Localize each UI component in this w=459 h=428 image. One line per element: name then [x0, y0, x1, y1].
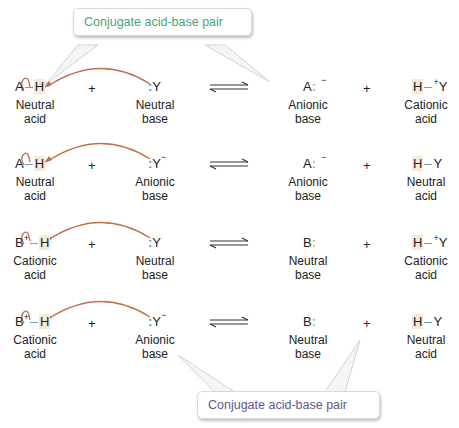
- product-acid: H+Y: [412, 236, 447, 251]
- label-line1: Neutral: [0, 98, 70, 112]
- acid-hydrogen: H: [412, 156, 423, 171]
- product-base: B:: [303, 236, 316, 250]
- acid-hydrogen: H: [412, 235, 423, 250]
- charge: −: [161, 310, 166, 320]
- diagram-graphics: [0, 0, 459, 428]
- product-base-label: Neutralbase: [273, 333, 343, 361]
- label-line1: Neutral: [391, 333, 459, 347]
- acid-left-atom: A: [15, 79, 24, 94]
- acid-hydrogen: H: [412, 79, 423, 94]
- product-acid-label: Cationicacid: [391, 98, 459, 126]
- reactant-acid: AH: [15, 157, 45, 172]
- acid-left-atom: B: [15, 314, 24, 329]
- charge: +: [433, 77, 438, 87]
- bond: [424, 164, 432, 165]
- bond: [25, 164, 33, 165]
- reactant-acid-label: Cationicacid: [0, 333, 70, 361]
- bond: [25, 87, 33, 88]
- label-line2: acid: [0, 112, 70, 126]
- plus-sign: +: [88, 316, 96, 331]
- label-line2: acid: [391, 189, 459, 203]
- label-line1: Neutral: [0, 175, 70, 189]
- acid-charge: +: [24, 312, 29, 322]
- lone-pair: :: [312, 314, 316, 329]
- charge: +: [433, 233, 438, 243]
- product-base-label: Anionicbase: [273, 175, 343, 203]
- reactant-base: :Y: [148, 80, 161, 94]
- product-base-label: Anionicbase: [273, 98, 343, 126]
- base-atom: Y: [152, 156, 161, 171]
- top-callout-right-tail: [205, 45, 270, 82]
- base-atom: B: [303, 235, 312, 250]
- base-atom: Y: [152, 235, 161, 250]
- label-line1: Anionic: [120, 175, 190, 189]
- plus-sign: +: [363, 316, 371, 331]
- bottom-callout-text: Conjugate acid-base pair: [208, 398, 347, 412]
- acid-hydrogen: H: [39, 314, 50, 329]
- product-base: A:−: [303, 80, 321, 95]
- label-line2: base: [273, 189, 343, 203]
- acid-atom: Y: [439, 79, 448, 94]
- base-atom: A: [303, 156, 312, 171]
- charge: −: [161, 152, 166, 162]
- base-atom: A: [303, 79, 312, 94]
- label-line1: Cationic: [391, 254, 459, 268]
- reactant-acid-label: Neutralacid: [0, 98, 70, 126]
- charge: −: [321, 152, 326, 162]
- reactant-acid-label: Cationicacid: [0, 254, 70, 282]
- label-line2: acid: [391, 347, 459, 361]
- reactant-base: :Y: [148, 236, 161, 250]
- label-line1: Cationic: [0, 333, 70, 347]
- label-line2: base: [273, 347, 343, 361]
- acid-atom: Y: [433, 156, 442, 171]
- bond: [30, 322, 38, 323]
- bond: [30, 243, 38, 244]
- label-line2: acid: [0, 347, 70, 361]
- plus-sign: +: [88, 237, 96, 252]
- acid-left-atom: B: [15, 235, 24, 250]
- product-acid-label: Cationicacid: [391, 254, 459, 282]
- reactant-base: :Y−: [148, 157, 166, 172]
- base-atom: Y: [152, 314, 161, 329]
- lone-pair: :: [312, 235, 316, 250]
- lone-pair: :: [312, 156, 316, 171]
- base-atom: Y: [152, 79, 161, 94]
- base-atom: B: [303, 314, 312, 329]
- label-line2: base: [273, 112, 343, 126]
- label-line1: Neutral: [273, 254, 343, 268]
- product-acid-label: Neutralacid: [391, 175, 459, 203]
- plus-sign: +: [88, 158, 96, 173]
- reactant-acid-label: Neutralacid: [0, 175, 70, 203]
- acid-hydrogen: H: [412, 314, 423, 329]
- label-line2: base: [120, 347, 190, 361]
- bond: [424, 87, 432, 88]
- acid-atom: Y: [439, 235, 448, 250]
- label-line1: Anionic: [273, 98, 343, 112]
- label-line1: Neutral: [120, 98, 190, 112]
- label-line2: acid: [0, 268, 70, 282]
- acid-hydrogen: H: [34, 79, 45, 94]
- label-line2: base: [120, 112, 190, 126]
- equilibrium-arrows: [210, 82, 248, 327]
- acid-left-atom: A: [15, 156, 24, 171]
- label-line1: Neutral: [273, 333, 343, 347]
- product-base: A:−: [303, 157, 321, 172]
- charge: −: [321, 75, 326, 85]
- reactant-base-label: Neutralbase: [120, 98, 190, 126]
- reactant-base-label: Neutralbase: [120, 254, 190, 282]
- label-line2: acid: [391, 268, 459, 282]
- plus-sign: +: [363, 158, 371, 173]
- label-line1: Anionic: [120, 333, 190, 347]
- product-base-label: Neutralbase: [273, 254, 343, 282]
- plus-sign: +: [363, 81, 371, 96]
- reactant-base-label: Anionicbase: [120, 333, 190, 361]
- acid-hydrogen: H: [39, 235, 50, 250]
- reactant-base: :Y−: [148, 315, 166, 330]
- plus-sign: +: [88, 81, 96, 96]
- acid-hydrogen: H: [34, 156, 45, 171]
- reactant-base-label: Anionicbase: [120, 175, 190, 203]
- label-line1: Cationic: [0, 254, 70, 268]
- reactant-acid: B+H: [15, 315, 50, 330]
- label-line2: base: [120, 268, 190, 282]
- bond: [424, 243, 432, 244]
